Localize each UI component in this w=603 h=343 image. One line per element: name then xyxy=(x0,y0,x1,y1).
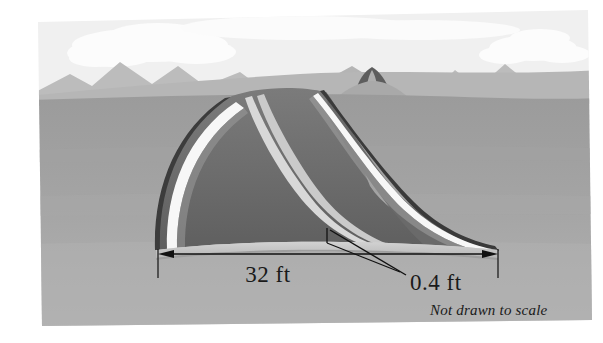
figure-illustration: 32 ft 0.4 ft Not drawn to scale xyxy=(0,0,603,343)
scene-drawing xyxy=(0,0,603,343)
dimension-label-thickness: 0.4 ft xyxy=(410,270,462,296)
not-to-scale-note: Not drawn to scale xyxy=(430,302,547,319)
dimension-label-width: 32 ft xyxy=(245,262,290,288)
